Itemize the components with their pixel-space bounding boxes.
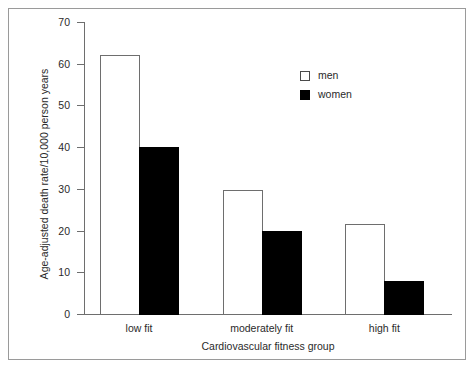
legend-label-men: men xyxy=(318,70,338,81)
y-axis-tick-label-text: 0 xyxy=(36,309,70,320)
figure-canvas: 010203040506070 Age-adjusted death rate/… xyxy=(0,0,476,371)
legend-item-men: men xyxy=(300,66,352,85)
legend-swatch-women-icon xyxy=(300,90,310,100)
y-axis-tick-label-text: 70 xyxy=(36,17,70,28)
y-axis-tick-mark xyxy=(77,189,84,190)
bar-women-moderately-fit xyxy=(262,231,302,315)
y-axis-line xyxy=(84,22,85,315)
bar-women-low-fit xyxy=(139,147,179,315)
y-axis-tick-mark xyxy=(77,314,84,315)
bar-men-high-fit xyxy=(345,224,385,315)
plot-area: 010203040506070 Age-adjusted death rate/… xyxy=(0,0,476,371)
y-axis-tick-mark xyxy=(77,105,84,106)
x-axis-label-low-fit: low fit xyxy=(79,322,199,334)
legend-swatch-men-icon xyxy=(300,71,310,81)
x-axis-label-moderately-fit: moderately fit xyxy=(202,322,322,334)
y-axis-tick-mark xyxy=(77,231,84,232)
chart-legend: men women xyxy=(300,66,352,104)
bar-men-low-fit xyxy=(100,55,140,315)
legend-item-women: women xyxy=(300,85,352,104)
bar-men-moderately-fit xyxy=(223,190,263,315)
x-axis-title: Cardiovascular fitness group xyxy=(84,340,452,352)
y-axis-tick-mark xyxy=(77,64,84,65)
bar-women-high-fit xyxy=(384,281,424,315)
legend-label-women: women xyxy=(318,89,352,100)
y-axis-tick-label: 70 xyxy=(36,17,70,29)
y-axis-title: Age-adjusted death rate/10,000 person ye… xyxy=(38,44,50,304)
y-axis-tick-mark xyxy=(77,147,84,148)
x-axis-label-high-fit: high fit xyxy=(324,322,444,334)
y-axis-tick-mark xyxy=(77,22,84,23)
y-axis-tick-mark xyxy=(77,272,84,273)
y-axis-tick-label: 0 xyxy=(36,309,70,321)
